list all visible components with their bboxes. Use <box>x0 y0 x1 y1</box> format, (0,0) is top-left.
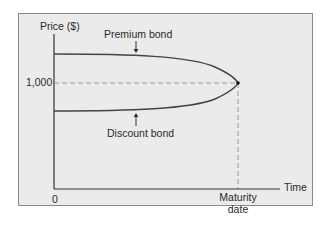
premium-arrowhead-icon <box>134 49 139 53</box>
y-axis-title: Price ($) <box>40 21 80 33</box>
x-tick-maturity-line2: date <box>214 204 262 216</box>
discount-bond-curve <box>54 83 238 111</box>
x-tick-maturity-line1: Maturity <box>214 192 262 204</box>
premium-bond-curve <box>54 54 238 83</box>
y-tick-par-value: 1,000 <box>26 77 52 89</box>
x-tick-origin: 0 <box>52 194 58 206</box>
premium-bond-label: Premium bond <box>104 29 172 41</box>
x-tick-maturity: Maturity date <box>214 192 262 215</box>
maturity-convergence-point <box>236 81 240 85</box>
x-axis-title: Time <box>284 182 307 194</box>
discount-bond-label: Discount bond <box>107 128 174 140</box>
discount-arrowhead-icon <box>134 113 139 117</box>
